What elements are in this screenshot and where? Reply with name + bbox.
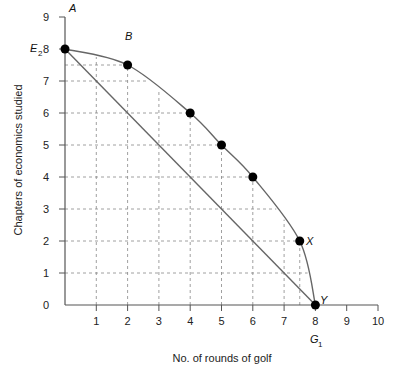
data-point xyxy=(248,173,257,182)
svg-text:2: 2 xyxy=(38,49,43,58)
x-tick-label: 2 xyxy=(125,315,131,327)
x-axis-title: No. of rounds of golf xyxy=(172,352,272,364)
ppc-chart: 012345678912345678910 A B X Y E 2 G 1 No… xyxy=(0,0,395,371)
x-tick-label: 6 xyxy=(250,315,256,327)
y-tick-label: 6 xyxy=(43,107,49,119)
y-tick-label: 9 xyxy=(43,11,49,23)
x-tick-label: 3 xyxy=(156,315,162,327)
annotation-e2: E 2 xyxy=(30,42,43,58)
annotation-g1: G 1 xyxy=(310,333,323,349)
x-tick-label: 8 xyxy=(312,315,318,327)
data-point xyxy=(186,109,195,118)
point-label-a: A xyxy=(68,2,76,14)
y-tick-label: 2 xyxy=(43,235,49,247)
data-point xyxy=(295,237,304,246)
point-label-y: Y xyxy=(320,294,328,306)
y-tick-label: 5 xyxy=(43,139,49,151)
x-tick-label: 9 xyxy=(344,315,350,327)
y-tick-label: 1 xyxy=(43,267,49,279)
y-axis-title: Chapters of economics studied xyxy=(12,84,24,235)
data-point xyxy=(61,45,70,54)
point-label-x: X xyxy=(305,235,314,247)
y-tick-label: 0 xyxy=(43,299,49,311)
data-point xyxy=(217,141,226,150)
x-tick-label: 5 xyxy=(218,315,224,327)
tick-labels: 012345678912345678910 xyxy=(43,11,384,327)
x-tick-label: 1 xyxy=(93,315,99,327)
x-tick-label: 4 xyxy=(187,315,193,327)
point-label-b: B xyxy=(125,30,132,42)
svg-text:1: 1 xyxy=(318,340,323,349)
grid-lines xyxy=(65,57,308,305)
y-tick-label: 8 xyxy=(43,43,49,55)
x-tick-label: 10 xyxy=(372,315,384,327)
y-tick-label: 4 xyxy=(43,171,49,183)
svg-text:E: E xyxy=(30,42,38,54)
data-point xyxy=(311,301,320,310)
y-tick-label: 3 xyxy=(43,203,49,215)
axes xyxy=(59,17,378,311)
y-tick-label: 7 xyxy=(43,75,49,87)
x-tick-label: 7 xyxy=(281,315,287,327)
data-point xyxy=(123,61,132,70)
